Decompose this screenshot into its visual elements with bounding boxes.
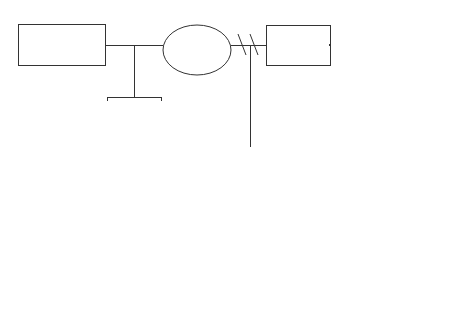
divorce-slash-icon — [238, 34, 246, 55]
father-node-shape — [267, 26, 331, 66]
family-tree-lines — [0, 0, 476, 323]
divorce-slash-icon — [250, 34, 258, 55]
mother-node-shape — [163, 25, 231, 75]
step-father-node-shape — [19, 25, 106, 66]
